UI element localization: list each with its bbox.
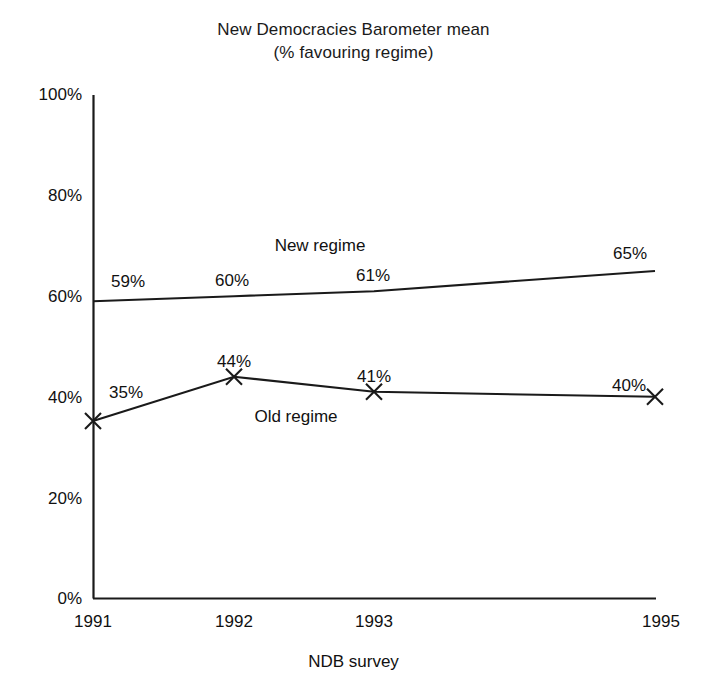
data-label-new-regime-1993: 61% xyxy=(343,266,403,286)
data-label-new-regime-1995: 65% xyxy=(600,244,660,264)
data-label-new-regime-1992: 60% xyxy=(202,271,262,291)
data-label-old-regime-1992: 44% xyxy=(204,352,264,372)
y-tick-label-20: 20% xyxy=(0,489,82,509)
y-tick-label-100: 100% xyxy=(0,85,82,105)
plot-area xyxy=(0,0,707,696)
x-axis-title: NDB survey xyxy=(0,652,707,672)
data-label-new-regime-1991: 59% xyxy=(98,272,158,292)
series-annotation-old-regime: Old regime xyxy=(226,407,366,427)
chart-container: New Democracies Barometer mean (% favour… xyxy=(0,0,707,696)
series-annotation-new-regime: New regime xyxy=(250,236,390,256)
x-tick-label-1995: 1995 xyxy=(621,612,701,632)
x-tick-label-1993: 1993 xyxy=(334,612,414,632)
x-tick-label-1991: 1991 xyxy=(53,612,133,632)
data-label-old-regime-1991: 35% xyxy=(96,383,156,403)
y-tick-label-40: 40% xyxy=(0,388,82,408)
x-tick-label-1992: 1992 xyxy=(194,612,274,632)
y-tick-label-60: 60% xyxy=(0,287,82,307)
y-tick-label-80: 80% xyxy=(0,186,82,206)
data-label-old-regime-1995: 40% xyxy=(599,376,659,396)
data-label-old-regime-1993: 41% xyxy=(344,367,404,387)
y-tick-label-0: 0% xyxy=(0,589,82,609)
